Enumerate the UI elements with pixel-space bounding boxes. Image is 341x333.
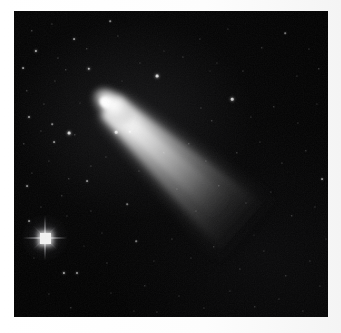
sky-background-glow	[14, 11, 328, 317]
star	[28, 116, 30, 118]
star	[57, 57, 58, 58]
star	[53, 141, 55, 143]
star	[278, 298, 279, 299]
star	[109, 20, 111, 22]
star	[163, 152, 164, 153]
star	[216, 62, 217, 63]
star	[178, 295, 179, 296]
photograph-frame	[0, 0, 341, 333]
star	[203, 307, 204, 308]
star	[61, 195, 62, 196]
star	[200, 107, 201, 108]
star	[48, 160, 49, 161]
star	[297, 122, 298, 123]
star	[308, 48, 309, 49]
star	[43, 103, 44, 104]
star	[218, 185, 219, 186]
star	[188, 143, 189, 144]
star	[63, 272, 65, 274]
sky-field	[14, 11, 328, 317]
star	[309, 260, 310, 261]
star	[153, 260, 154, 261]
star	[68, 132, 71, 135]
star	[84, 246, 85, 247]
star	[164, 51, 165, 52]
star-halo	[22, 215, 68, 261]
star	[263, 250, 264, 251]
star	[133, 310, 134, 311]
star	[213, 246, 214, 247]
star	[281, 162, 282, 163]
star	[138, 170, 139, 171]
star	[210, 71, 211, 72]
star	[229, 290, 230, 291]
comet-tail-core	[100, 96, 238, 224]
star	[139, 62, 140, 63]
star	[31, 30, 32, 31]
star	[211, 120, 212, 121]
star	[22, 67, 24, 69]
film-grain-overlay	[14, 11, 328, 317]
star	[40, 130, 41, 131]
star	[176, 188, 177, 189]
star-core	[40, 233, 51, 244]
star	[284, 32, 286, 34]
star	[80, 103, 81, 104]
star	[199, 38, 200, 39]
star	[250, 116, 251, 117]
star	[316, 103, 317, 104]
star	[291, 215, 292, 216]
star	[88, 68, 90, 70]
star	[115, 131, 118, 134]
star	[321, 178, 323, 180]
star	[76, 272, 78, 274]
star	[40, 206, 41, 207]
star	[90, 165, 91, 166]
star	[117, 35, 118, 36]
star	[54, 80, 55, 81]
star-spike-diagonal-2	[33, 226, 58, 251]
star	[122, 81, 123, 82]
star	[135, 240, 137, 242]
star	[190, 257, 191, 258]
star	[110, 292, 111, 293]
star	[129, 131, 131, 133]
star	[305, 150, 306, 151]
star	[270, 191, 271, 192]
star	[227, 28, 228, 29]
star	[302, 310, 303, 311]
star	[273, 106, 274, 107]
star	[126, 203, 128, 205]
star	[26, 185, 28, 187]
star	[319, 285, 320, 286]
star	[144, 285, 145, 286]
star	[33, 257, 34, 258]
star	[254, 306, 255, 307]
star	[68, 178, 69, 179]
star	[35, 50, 37, 52]
star	[26, 90, 27, 91]
star	[195, 210, 196, 211]
star	[73, 38, 75, 40]
star	[314, 206, 315, 207]
star	[74, 134, 75, 135]
star	[261, 47, 262, 48]
star	[254, 235, 255, 236]
star	[86, 180, 88, 182]
star	[242, 70, 243, 71]
star-spike-diagonal-1	[33, 226, 58, 251]
comet-coma	[85, 81, 141, 135]
comet-tail	[88, 84, 270, 257]
star	[65, 69, 66, 70]
star	[23, 143, 24, 144]
star	[318, 68, 319, 69]
star	[48, 293, 49, 294]
comet-nucleus	[95, 92, 116, 113]
star	[182, 56, 183, 57]
star	[70, 307, 71, 308]
star	[90, 210, 91, 211]
star	[51, 23, 52, 24]
star-spike-horizontal	[23, 237, 67, 239]
comet	[14, 11, 328, 317]
star	[236, 152, 237, 153]
